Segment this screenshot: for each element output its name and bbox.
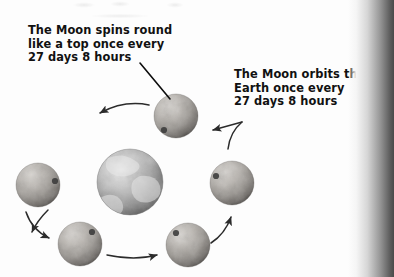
- moon-crater-spot: [213, 173, 219, 179]
- moon-crater-spot: [161, 127, 167, 133]
- moon-crater-spot: [52, 178, 58, 184]
- moon-crater-spot: [173, 230, 179, 236]
- moon-right: [210, 161, 254, 205]
- moon-crater-spot: [89, 229, 95, 235]
- arrow-lower-left: [26, 212, 49, 238]
- earth-globe: [95, 147, 167, 219]
- caption-moon-orbit: The Moon orbits the Earth once every 27 …: [234, 68, 366, 109]
- arrow-right: [211, 217, 231, 243]
- caption-moon-spin: The Moon spins round like a top once eve…: [28, 24, 172, 65]
- moon-lower-right: [166, 223, 210, 267]
- moon-upper-left: [16, 163, 60, 207]
- arrow-bottom: [107, 255, 157, 258]
- moon-top: [154, 94, 198, 138]
- moon-lower-left: [58, 222, 102, 266]
- leader-line-orbit: [213, 122, 242, 149]
- arrow-upper-left: [32, 210, 48, 232]
- arrow-top: [100, 104, 149, 113]
- moon-orbit-figure: The Moon spins round like a top once eve…: [0, 0, 394, 277]
- leader-line-spin: [140, 63, 170, 99]
